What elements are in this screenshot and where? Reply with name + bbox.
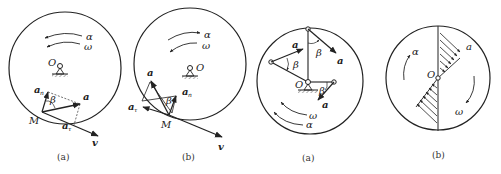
svg-text:n: n <box>188 91 192 98</box>
beta3-label: β <box>318 85 325 96</box>
omega-label: ω <box>202 40 210 51</box>
a1-label: a <box>292 39 298 50</box>
center-O-label: O <box>427 69 435 80</box>
panel-left-b: α ω O β a a n a τ M v (b) <box>128 8 246 162</box>
accel-distribution-upper <box>440 33 460 72</box>
v-label: v <box>92 137 98 148</box>
omega-arc-arrow <box>47 42 80 47</box>
beta2-label: β <box>315 47 322 58</box>
panel-right-a: a a a β β β O ω α (a) <box>257 27 363 163</box>
center-O-label: O <box>48 57 56 68</box>
alpha-arc-arrow <box>45 33 82 38</box>
total-accel-vector <box>42 104 80 112</box>
omega-arc-arrow <box>281 102 307 115</box>
a-label: a <box>466 41 472 52</box>
omega-arc-arrow <box>466 76 474 103</box>
alpha-label: α <box>204 29 211 40</box>
mechanics-figure: α ω O β a n a M a τ v (a) α ω <box>0 0 501 174</box>
a-label: a <box>147 67 153 78</box>
accel-distribution-lower <box>417 84 437 123</box>
disk-outline <box>134 8 246 120</box>
caption-b-right: (b) <box>432 150 445 160</box>
caption-b: (b) <box>182 152 195 162</box>
velocity-vector <box>169 115 222 137</box>
panel-right-b: O a α ω (b) <box>386 26 490 160</box>
svg-text:τ: τ <box>134 106 138 113</box>
svg-text:τ: τ <box>68 125 72 132</box>
center-O-label: O <box>196 62 204 73</box>
beta-label: β <box>165 95 172 106</box>
caption-a-right: (a) <box>302 153 314 163</box>
alpha-label: α <box>412 46 419 57</box>
omega-label: ω <box>84 41 92 52</box>
center-O-label: O <box>295 79 303 90</box>
panel-left-a: α ω O β a n a M a τ v (a) <box>9 12 121 162</box>
center-pivot-icon <box>436 76 440 80</box>
alpha-arc-arrow <box>404 55 410 80</box>
beta1-label: β <box>292 59 299 70</box>
a3-label: a <box>322 99 328 110</box>
caption-a: (a) <box>57 152 69 162</box>
alpha-arc-arrow <box>168 32 200 40</box>
svg-text:n: n <box>40 89 44 96</box>
omega-arc-arrow <box>170 43 197 52</box>
omega-label: ω <box>455 106 463 117</box>
v-label: v <box>218 141 224 152</box>
point-M-label: M <box>28 115 40 126</box>
a-label: a <box>83 91 89 102</box>
point-M-label: M <box>160 119 172 130</box>
beta-label: β <box>49 94 56 105</box>
velocity-vector <box>42 112 98 136</box>
alpha-label: α <box>306 119 313 130</box>
a2-label: a <box>337 55 343 66</box>
